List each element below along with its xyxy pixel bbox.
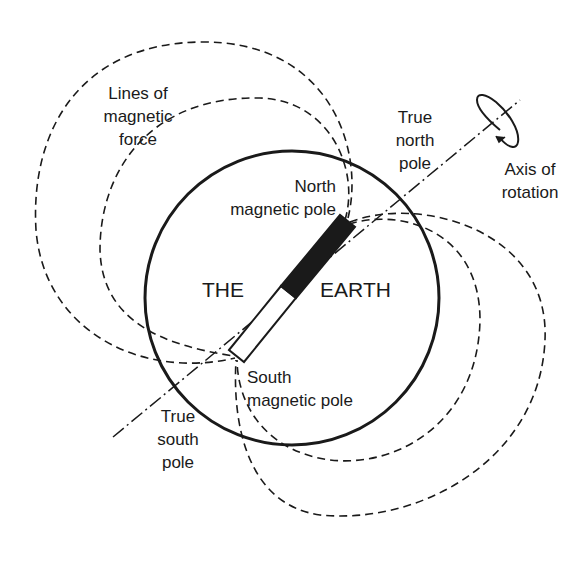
label-line: south bbox=[148, 428, 208, 451]
label-earth: EARTH bbox=[318, 278, 393, 302]
label-true-north-pole: True north pole bbox=[385, 106, 445, 175]
label-line: South bbox=[247, 366, 377, 389]
label-line: True bbox=[148, 405, 208, 428]
label-line: magnetic bbox=[98, 105, 178, 128]
label-south-magnetic-pole: South magnetic pole bbox=[247, 366, 377, 412]
label-line: magnetic pole bbox=[206, 198, 336, 221]
label-line: north bbox=[385, 129, 445, 152]
label-lines-of-force: Lines of magnetic force bbox=[98, 82, 178, 151]
label-axis-of-rotation: Axis of rotation bbox=[490, 158, 570, 204]
label-north-magnetic-pole: North magnetic pole bbox=[206, 175, 336, 221]
label-line: magnetic pole bbox=[247, 389, 377, 412]
label-the: THE bbox=[198, 278, 248, 302]
label-line: force bbox=[98, 128, 178, 151]
label-line: True bbox=[385, 106, 445, 129]
label-line: Lines of bbox=[98, 82, 178, 105]
label-line: pole bbox=[148, 451, 208, 474]
label-true-south-pole: True south pole bbox=[148, 405, 208, 474]
label-line: pole bbox=[385, 152, 445, 175]
label-line: North bbox=[206, 175, 336, 198]
label-line: rotation bbox=[490, 181, 570, 204]
field-line-inner-right bbox=[237, 219, 480, 461]
diagram-canvas bbox=[0, 0, 585, 575]
label-line: Axis of bbox=[490, 158, 570, 181]
field-line-outer-right bbox=[235, 213, 545, 516]
rotation-arrow-icon bbox=[477, 95, 518, 147]
